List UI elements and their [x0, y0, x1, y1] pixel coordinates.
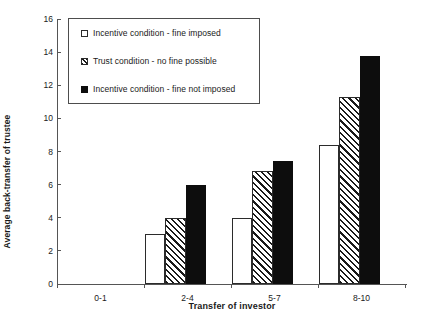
y-axis-tick-mark: [57, 217, 61, 218]
y-axis-tick-label: 0: [48, 279, 57, 289]
y-axis-tick-label: 10: [44, 113, 57, 123]
y-axis-tick: 12: [44, 80, 57, 90]
y-axis-tick-mark: [57, 52, 61, 53]
y-axis-title: Average back-transfer of trustee: [0, 0, 18, 327]
legend-item[interactable]: Trust condition - no fine possible: [81, 47, 259, 75]
bar-5-7-series0: [232, 218, 253, 284]
bar-2-4-series0: [145, 234, 166, 284]
bar-8-10-series1: [339, 97, 360, 284]
y-axis-tick-label: 12: [44, 80, 57, 90]
y-axis-tick: 14: [44, 47, 57, 57]
y-axis-tick: 16: [44, 14, 57, 24]
y-axis-tick-mark: [57, 250, 61, 251]
x-axis-tick-mark: [144, 284, 145, 288]
y-axis-tick-mark: [57, 118, 61, 119]
y-axis-tick-mark: [57, 184, 61, 185]
y-axis-tick-mark: [57, 19, 61, 20]
legend: Incentive condition - fine imposedTrust …: [68, 18, 260, 104]
y-axis-tick-label: 14: [44, 47, 57, 57]
legend-item[interactable]: Incentive condition - fine imposed: [81, 19, 259, 47]
y-axis-tick-mark: [57, 151, 61, 152]
y-axis-tick: 0: [48, 279, 57, 289]
bar-5-7-series2: [273, 161, 294, 284]
bar-chart-figure: Average back-transfer of trustee 0246810…: [0, 0, 422, 327]
legend-swatch-icon: [81, 86, 88, 93]
y-axis-tick-label: 2: [48, 246, 57, 256]
bar-5-7-series1: [252, 171, 273, 284]
legend-item[interactable]: Incentive condition - fine not imposed: [81, 75, 259, 103]
legend-swatch-icon: [81, 58, 88, 65]
bar-2-4-series2: [186, 185, 207, 284]
y-axis-tick-label: 16: [44, 14, 57, 24]
y-axis-tick: 2: [48, 246, 57, 256]
y-axis-tick: 6: [48, 180, 57, 190]
legend-swatch-icon: [81, 30, 88, 37]
x-axis-tick-mark: [318, 284, 319, 288]
y-axis-tick-label: 4: [48, 213, 57, 223]
y-axis-tick-label: 8: [48, 147, 57, 157]
x-axis-tick-mark: [231, 284, 232, 288]
y-axis-tick-label: 6: [48, 180, 57, 190]
x-axis-line: [57, 284, 407, 285]
bar-2-4-series1: [165, 218, 186, 284]
y-axis-tick-mark: [57, 85, 61, 86]
legend-item-label: Incentive condition - fine not imposed: [93, 84, 235, 94]
x-axis-tick-mark: [57, 284, 58, 288]
x-axis-tick-mark: [405, 284, 406, 288]
bar-8-10-series0: [319, 145, 340, 284]
x-axis-title: Transfer of investor: [57, 301, 407, 311]
y-axis-title-text: Average back-transfer of trustee: [2, 115, 12, 249]
bar-8-10-series2: [360, 56, 381, 284]
legend-item-label: Incentive condition - fine imposed: [93, 28, 221, 38]
y-axis-tick: 4: [48, 213, 57, 223]
y-axis-tick: 8: [48, 147, 57, 157]
y-axis-tick: 10: [44, 113, 57, 123]
legend-item-label: Trust condition - no fine possible: [93, 56, 217, 66]
